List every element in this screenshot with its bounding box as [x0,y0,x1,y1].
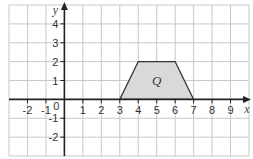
y-tick-label: 4 [52,18,58,30]
x-tick-label: 5 [154,104,160,116]
x-tick-label: 2 [98,104,104,116]
shape-label: Q [152,73,162,88]
x-tick-label: 7 [191,104,197,116]
x-tick-label: 8 [209,104,215,116]
x-tick-label: 3 [117,104,123,116]
y-tick-label: 3 [52,37,58,49]
y-tick-label: 1 [52,75,58,87]
y-tick-label: -1 [49,112,59,124]
y-tick-label: -2 [49,131,59,143]
x-tick-label: 4 [135,104,141,116]
coordinate-grid: Q -2-11234567894321-1-20xy [0,0,253,159]
shapes: Q [120,62,194,100]
y-axis-label: y [52,3,59,17]
x-tick-label: 1 [80,104,86,116]
x-tick-label: 9 [227,104,233,116]
y-tick-label: 2 [52,56,58,68]
x-tick-label: 6 [172,104,178,116]
y-axis-arrow-icon [61,2,68,10]
x-tick-label: -2 [23,104,33,116]
origin-label: 0 [53,100,59,112]
x-axis-label: x [243,102,250,116]
